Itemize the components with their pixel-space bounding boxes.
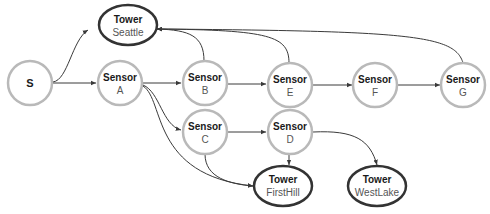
node-e-title: Sensor (273, 74, 307, 85)
node-sensor-f[interactable]: Sensor F (353, 63, 397, 107)
node-b-sub: B (202, 85, 209, 96)
node-westlake-title: Tower (363, 174, 392, 185)
node-tower-westlake[interactable]: Tower WestLake (348, 166, 406, 206)
node-tower-seattle[interactable]: Tower Seattle (99, 5, 157, 45)
node-sensor-e[interactable]: Sensor E (268, 63, 312, 107)
edge-d-westlake (313, 132, 377, 165)
node-tower-firsthill[interactable]: Tower FirstHill (254, 166, 312, 206)
node-sensor-g[interactable]: Sensor G (441, 63, 485, 107)
node-a-sub: A (117, 85, 124, 96)
node-s[interactable]: S (8, 61, 52, 105)
edge-c-firsthill (205, 154, 253, 186)
edge-b-seattle (157, 29, 204, 61)
edge-s-seattle (53, 30, 88, 82)
node-a-title: Sensor (103, 72, 137, 83)
node-c-sub: C (201, 134, 208, 145)
node-firsthill-title: Tower (269, 174, 298, 185)
node-e-sub: E (287, 87, 294, 98)
node-seattle-sub: Seattle (112, 27, 144, 38)
node-s-label: S (26, 77, 33, 89)
node-f-title: Sensor (358, 74, 392, 85)
edge-g-seattle (157, 29, 463, 63)
node-g-sub: G (459, 87, 467, 98)
node-westlake-sub: WestLake (355, 187, 400, 198)
node-firsthill-sub: FirstHill (266, 187, 299, 198)
node-d-title: Sensor (273, 121, 307, 132)
node-d-sub: D (286, 134, 293, 145)
edges (53, 29, 463, 186)
node-seattle-title: Tower (114, 14, 143, 25)
node-sensor-b[interactable]: Sensor B (183, 61, 227, 105)
node-f-sub: F (372, 87, 378, 98)
node-sensor-d[interactable]: Sensor D (268, 110, 312, 154)
node-sensor-a[interactable]: Sensor A (98, 61, 142, 105)
node-b-title: Sensor (188, 72, 222, 83)
node-sensor-c[interactable]: Sensor C (183, 110, 227, 154)
node-g-title: Sensor (446, 74, 480, 85)
edge-e-seattle (157, 29, 289, 63)
network-diagram: S Tower Seattle Sensor A Sensor B Sensor… (0, 0, 490, 214)
node-c-title: Sensor (188, 121, 222, 132)
